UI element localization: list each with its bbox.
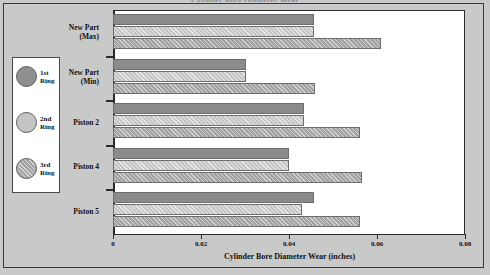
bar-2-group-4 xyxy=(113,160,289,171)
y-axis-label-5: Piston 5 xyxy=(0,207,104,216)
x-axis-tick-5 xyxy=(465,234,466,239)
x-axis-title: Cylinder Bore Diameter Wear (inches) xyxy=(113,252,466,261)
y-axis-label-3: Piston 2 xyxy=(0,118,104,127)
y-axis-tick-4 xyxy=(106,189,115,191)
figure-title: Cylinder Bore Diameter Wear xyxy=(0,0,490,2)
x-axis-tick-4 xyxy=(377,234,378,239)
chart-screenshot: Cylinder Bore Diameter Wear 1st Ring 2nd… xyxy=(0,0,490,275)
bar-1-group-2 xyxy=(113,59,246,70)
bar-1-group-5 xyxy=(113,192,314,203)
x-axis-tick-1 xyxy=(113,234,114,239)
bar-1-group-3 xyxy=(113,103,304,114)
x-axis-tick-label-4: 0.06 xyxy=(371,240,383,248)
y-axis-label-1: New Part (Max) xyxy=(0,23,104,41)
x-axis-tick-label-2: 0.02 xyxy=(195,240,207,248)
x-axis-tick-3 xyxy=(289,234,290,239)
y-axis-tick-2 xyxy=(106,100,115,102)
x-axis-tick-label-3: 0.04 xyxy=(283,240,295,248)
bar-3-group-5 xyxy=(113,216,360,227)
bar-3-group-1 xyxy=(113,38,381,49)
y-axis-tick-3 xyxy=(106,145,115,147)
bar-3-group-4 xyxy=(113,172,362,183)
x-axis-tick-2 xyxy=(201,234,202,239)
bar-2-group-5 xyxy=(113,204,302,215)
bar-3-group-3 xyxy=(113,127,360,138)
x-axis-tick-label-1: 0 xyxy=(111,240,115,248)
y-axis-label-2: New Part (Min) xyxy=(0,68,104,86)
bar-2-group-2 xyxy=(113,71,246,82)
bar-2-group-3 xyxy=(113,115,304,126)
bar-2-group-1 xyxy=(113,26,314,37)
bar-1-group-4 xyxy=(113,148,289,159)
x-axis-tick-label-5: 0.08 xyxy=(459,240,471,248)
bar-3-group-2 xyxy=(113,83,315,94)
bar-1-group-1 xyxy=(113,14,314,25)
y-axis-label-4: Piston 4 xyxy=(0,162,104,171)
y-axis-tick-1 xyxy=(106,56,115,58)
